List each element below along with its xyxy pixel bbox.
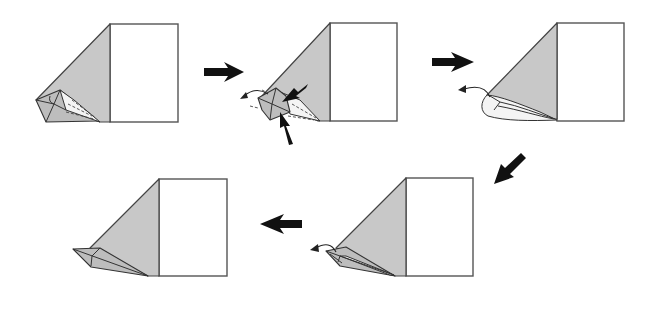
- arrow-right-icon: [432, 52, 474, 72]
- arrow-right-icon: [204, 62, 244, 82]
- arrow-tip-icon: [240, 92, 248, 99]
- step-2: [240, 23, 397, 145]
- paper-square: [159, 179, 227, 276]
- paper-square: [330, 23, 397, 121]
- step-arrow-left: [260, 214, 302, 234]
- step-5: [73, 179, 227, 276]
- paper-square: [406, 178, 473, 276]
- step-arrow-right: [432, 52, 474, 72]
- arrow-left-icon: [260, 214, 302, 234]
- step-4: [310, 178, 473, 276]
- step-arrow-right: [204, 62, 244, 82]
- paper-square: [110, 24, 178, 122]
- arrow-down-left-icon: [494, 153, 526, 184]
- origami-diagram: [0, 0, 659, 312]
- arrow-tip-icon: [458, 85, 466, 93]
- step-3: [458, 23, 624, 121]
- paper-square: [557, 23, 624, 121]
- arrow-tip-icon: [310, 244, 319, 252]
- step-1: [36, 24, 178, 122]
- push-arrow-icon: [280, 112, 293, 145]
- step-arrow-down-left: [494, 153, 526, 184]
